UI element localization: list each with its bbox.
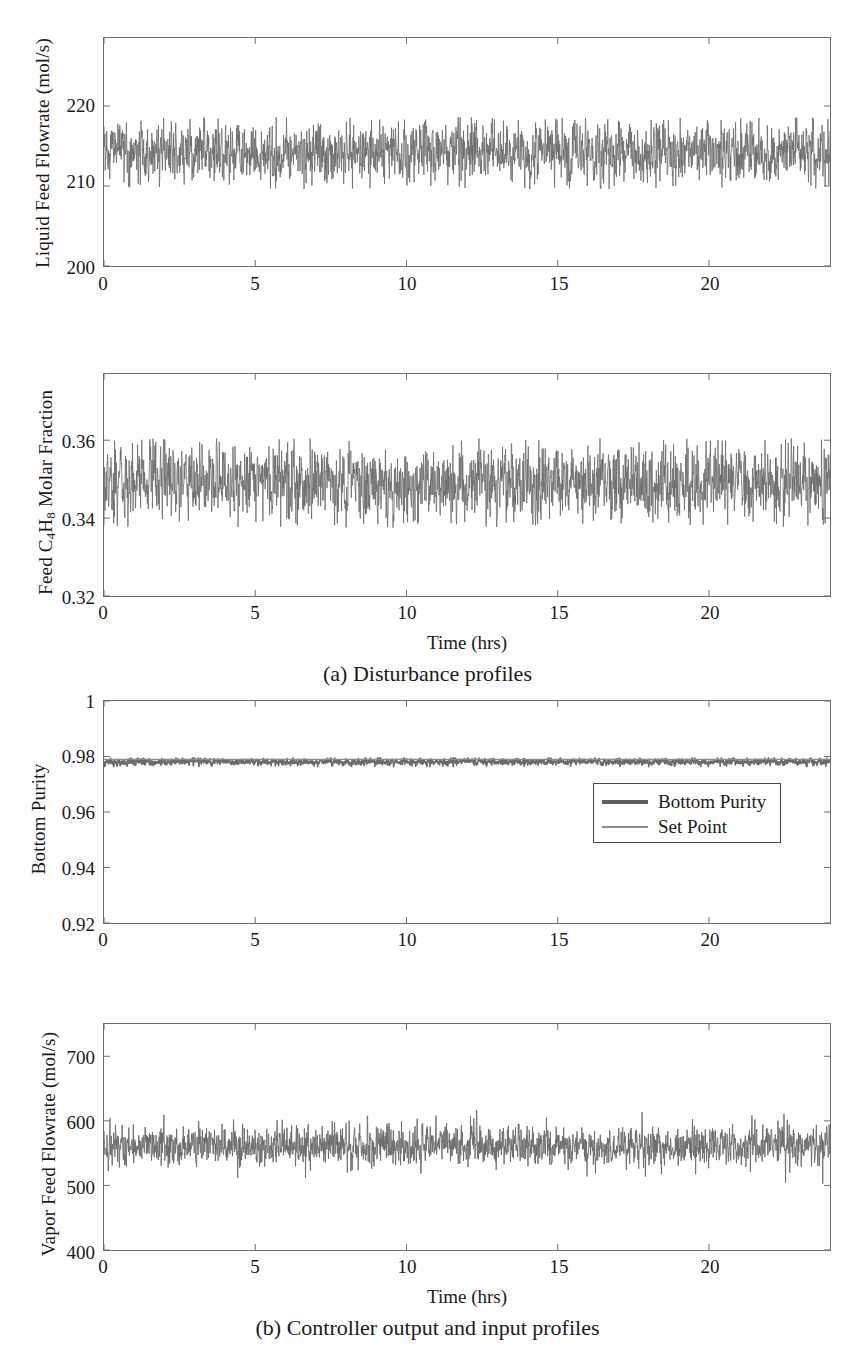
y-tick-label: 600: [33, 1113, 95, 1132]
panel-b-bottom: Vapor Feed Flowrate (mol/s) 700 600 500 …: [0, 0, 855, 1354]
y-tick-label: 500: [33, 1178, 95, 1197]
y-tick-label: 700: [33, 1048, 95, 1067]
x-tick-label: 15: [539, 1257, 579, 1276]
x-tick-label: 0: [83, 1257, 123, 1276]
x-tick-label: 20: [690, 1257, 730, 1276]
plot-svg-vapor-feed-flowrate: [104, 1024, 830, 1250]
x-axis-label-time: Time (hrs): [367, 1287, 567, 1306]
subfigure-caption-b: (b) Controller output and input profiles: [0, 1317, 855, 1339]
plot-area-vapor-feed-flowrate: [103, 1023, 831, 1251]
x-tick-label: 5: [235, 1257, 275, 1276]
figure-container: Liquid Feed Flowrate (mol/s) 220 210 200…: [0, 0, 855, 1354]
x-tick-label: 10: [387, 1257, 427, 1276]
